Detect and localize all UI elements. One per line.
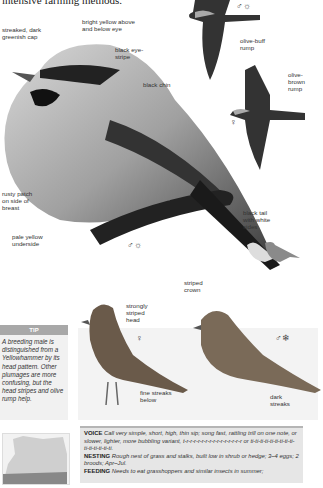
- tip-body: A breeding male is distinguished from a …: [0, 335, 68, 407]
- feeding-text: Needs to eat grasshoppers and similar in…: [112, 468, 264, 474]
- distribution-map: [2, 433, 70, 485]
- label-underside: pale yellow underside: [12, 233, 48, 247]
- label-striped-crown: striped crown: [184, 279, 210, 293]
- feeding-label: FEEDING: [84, 468, 112, 474]
- tip-box: TIP A breeding male is distinguished fro…: [0, 325, 68, 420]
- winter-male-illustration: [193, 300, 323, 420]
- intro-text: intensive farming methods.: [2, 0, 122, 6]
- label-olive-buff-rump: olive-buff rump: [240, 37, 272, 51]
- label-fine-streaks: fine streaks below: [140, 389, 176, 403]
- flight-female-sex-symbol: ♀: [230, 117, 237, 127]
- label-tail: black tail with white sides: [243, 209, 279, 230]
- label-strongly-striped-head: strongly striped head: [126, 302, 160, 323]
- label-cap: streaked, dark greenish cap: [2, 26, 54, 40]
- main-bird-sex-symbol: ♂☼: [127, 240, 142, 250]
- label-olive-brown-rump: olive-brown rump: [288, 71, 318, 92]
- size-comparison-silhouettes: [245, 240, 305, 265]
- species-info-box: VOICE Call very simple, short, high, thi…: [80, 426, 303, 483]
- label-eye-stripe: black eye-stripe: [115, 46, 149, 60]
- label-chin: black chin: [143, 81, 171, 88]
- label-eye: bright yellow above and below eye: [82, 18, 142, 32]
- tip-heading: TIP: [0, 325, 68, 335]
- winter-male-sex-symbol: ♂❄: [275, 333, 290, 343]
- voice-label: VOICE: [84, 430, 104, 436]
- voice-text: Call very simple, short, high, thin sip;…: [84, 430, 297, 451]
- nesting-text: Rough nest of grass and stalks, built lo…: [84, 453, 299, 467]
- label-dark-streaks: dark streaks: [270, 393, 296, 407]
- label-rusty: rusty patch on side of breast: [2, 190, 40, 211]
- nesting-label: NESTING: [84, 453, 112, 459]
- female-perched-sex-symbol: ♀: [136, 333, 143, 343]
- flight-male-sex-symbol: ♂☼: [236, 1, 251, 11]
